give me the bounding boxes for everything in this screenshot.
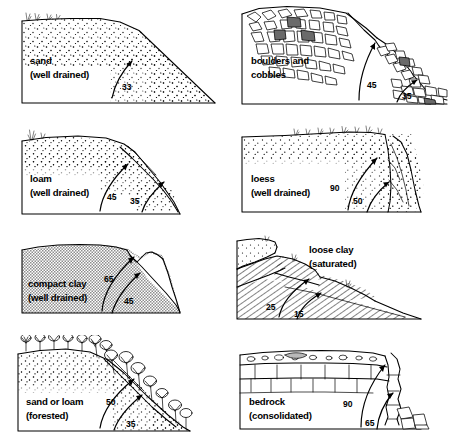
boulders-label-line2: cobbles <box>251 69 286 80</box>
bedrock-talus-blocks <box>397 407 429 429</box>
boulders-angle-value-45: 45 <box>367 80 377 90</box>
boulders-slip-plane-1 <box>348 13 379 46</box>
slope-angles-figure: 33 sand (well drained) <box>0 0 449 448</box>
bedrock-label-line1: bedrock <box>249 396 286 407</box>
bedrock-bedding-plane-2 <box>240 392 373 393</box>
bedrock-label-line2: (consolidated) <box>249 410 312 421</box>
compact-clay-angle-value-65: 65 <box>104 274 114 284</box>
forested-angle-value-35: 35 <box>126 419 136 429</box>
panel-loam: 45 35 loam (well drained) <box>0 120 225 235</box>
bedrock-arrowhead-65 <box>387 393 393 399</box>
bedrock-bedding-plane-1 <box>240 378 389 381</box>
forested-label-line1: sand or loam <box>26 396 83 407</box>
panel-sand: 33 sand (well drained) <box>0 0 225 120</box>
grass-fringe-icon <box>294 126 382 135</box>
compact-clay-label-line2: (well drained) <box>28 292 87 303</box>
cobble-blocks-lower <box>377 43 447 104</box>
loose-clay-label-line2: (saturated) <box>309 258 356 269</box>
forested-angle-value-50: 50 <box>106 397 116 407</box>
loose-clay-label-line1: loose clay <box>309 244 354 255</box>
loose-clay-angle-value-25: 25 <box>266 302 276 312</box>
loam-label-line1: loam <box>30 173 52 184</box>
bedrock-regolith-base <box>240 363 387 367</box>
compact-clay-angle-value-45: 45 <box>124 296 134 306</box>
loess-label-line2: (well drained) <box>251 187 310 198</box>
regolith-pebbles-icon <box>247 353 377 362</box>
boulders-label-line1: boulders and <box>251 55 309 66</box>
sand-label-line2: (well drained) <box>30 69 89 80</box>
forested-label-line2: (forested) <box>26 410 68 421</box>
sand-label-line1: sand <box>30 55 52 66</box>
boulders-angle-value-35: 35 <box>402 91 412 101</box>
loam-label-line2: (well drained) <box>30 187 89 198</box>
loess-angle-value-90: 90 <box>330 183 340 193</box>
loose-clay-angle-value-15: 15 <box>294 309 304 319</box>
compact-clay-label-line1: compact clay <box>28 278 87 289</box>
loam-angle-value-45: 45 <box>107 192 117 202</box>
boulders-angle-arc-45 <box>359 43 375 100</box>
panel-loess: 90 50 loess (well drained) <box>225 120 449 235</box>
panel-compact-clay: 65 45 compact clay (well drained) <box>0 235 225 340</box>
sand-angle-value-33: 33 <box>122 82 132 92</box>
panel-sand-or-loam-forested: 50 35 sand or loam (forested) <box>0 335 225 448</box>
loam-angle-value-35: 35 <box>130 196 140 206</box>
loess-angle-value-50: 50 <box>353 196 363 206</box>
bedrock-angle-value-65: 65 <box>365 418 375 428</box>
panel-bedrock: 90 65 bedrock (consolidated) <box>225 335 449 448</box>
panel-boulders-and-cobbles: 45 35 boulders and cobbles <box>225 0 449 120</box>
panel-loose-clay: 25 15 loose clay (saturated) <box>225 235 449 340</box>
bedrock-angle-value-90: 90 <box>343 399 353 409</box>
loess-label-line1: loess <box>251 173 275 184</box>
